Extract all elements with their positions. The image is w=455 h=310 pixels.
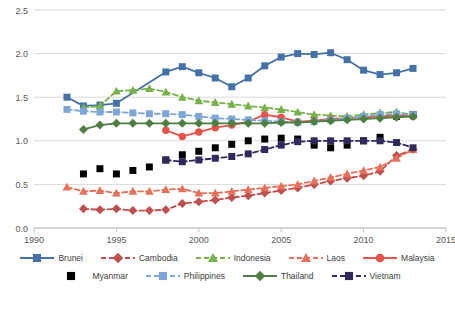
- x-tick-label: 2005: [271, 235, 291, 245]
- data-point-marker: [261, 146, 268, 153]
- data-point-marker: [327, 144, 334, 151]
- data-point-marker: [146, 110, 153, 117]
- data-point-marker: [294, 138, 301, 145]
- data-point-marker: [228, 141, 235, 148]
- line-chart-plot: 0.00.51.01.52.02.51990199520002005201020…: [0, 0, 455, 250]
- legend-label: Malaysia: [401, 252, 435, 264]
- data-point-marker: [129, 167, 136, 174]
- data-point-marker: [294, 50, 301, 57]
- data-point-marker: [410, 65, 417, 72]
- legend-key: [54, 270, 88, 282]
- x-tick-label: 2015: [436, 235, 455, 245]
- data-point-marker: [261, 111, 268, 118]
- y-tick-label: 1.5: [15, 93, 28, 103]
- series-line: [166, 141, 413, 162]
- x-tick-label: 1995: [106, 235, 126, 245]
- legend-key: [146, 270, 180, 282]
- data-point-marker: [113, 170, 120, 177]
- data-point-marker: [195, 148, 202, 155]
- y-tick-label: 0.5: [15, 180, 28, 190]
- legend-item-brunei[interactable]: Brunei: [20, 252, 83, 264]
- data-point-marker: [113, 100, 120, 107]
- data-point-marker: [360, 137, 367, 144]
- data-point-marker: [195, 69, 202, 76]
- data-point-marker: [179, 111, 186, 118]
- data-point-marker: [161, 205, 170, 214]
- data-point-marker: [146, 163, 153, 170]
- data-point-marker: [95, 205, 104, 214]
- data-point-marker: [96, 165, 103, 172]
- legend-key: [332, 270, 366, 282]
- data-point-marker: [179, 133, 186, 140]
- data-point-marker: [376, 163, 385, 171]
- data-point-marker: [245, 150, 252, 157]
- x-tick-label: 2010: [354, 235, 374, 245]
- data-point-marker: [212, 75, 219, 82]
- data-point-marker: [195, 128, 202, 135]
- data-point-marker: [195, 157, 202, 164]
- data-point-marker: [145, 206, 154, 215]
- data-point-marker: [145, 119, 154, 128]
- legend-label: Cambodia: [139, 252, 178, 264]
- data-point-marker: [113, 253, 124, 264]
- data-point-marker: [128, 206, 137, 215]
- data-point-marker: [63, 106, 70, 113]
- y-tick-label: 2.0: [15, 49, 28, 59]
- data-point-marker: [113, 109, 120, 116]
- legend-label: Indonesia: [234, 252, 271, 264]
- series-line: [67, 53, 413, 106]
- x-tick-label: 2000: [189, 235, 209, 245]
- data-point-marker: [212, 144, 219, 151]
- data-point-marker: [377, 71, 384, 78]
- legend-label: Laos: [327, 252, 345, 264]
- legend-key: [20, 252, 54, 264]
- legend-label: Philippines: [184, 270, 225, 282]
- legend-item-cambodia[interactable]: Cambodia: [101, 252, 178, 264]
- data-point-marker: [128, 119, 137, 128]
- legend-row-1: BruneiCambodiaIndonesiaLaosMalaysia: [0, 252, 455, 264]
- data-point-marker: [211, 196, 220, 205]
- chart-legend: BruneiCambodiaIndonesiaLaosMalaysia Myan…: [0, 252, 455, 310]
- data-point-marker: [376, 254, 385, 263]
- data-point-marker: [33, 254, 41, 262]
- data-point-marker: [195, 113, 202, 120]
- legend-key: [289, 252, 323, 264]
- data-point-marker: [255, 271, 266, 282]
- legend-item-philippines[interactable]: Philippines: [146, 270, 225, 282]
- legend-item-thailand[interactable]: Thailand: [243, 270, 314, 282]
- data-point-marker: [311, 51, 318, 58]
- data-point-marker: [377, 137, 384, 144]
- data-point-marker: [129, 109, 136, 116]
- data-point-marker: [178, 199, 187, 208]
- data-point-marker: [162, 110, 169, 117]
- data-point-marker: [261, 136, 268, 143]
- data-point-marker: [161, 119, 170, 128]
- y-tick-label: 2.5: [15, 6, 28, 16]
- legend-item-vietnam[interactable]: Vietnam: [332, 270, 401, 282]
- data-point-marker: [159, 272, 167, 280]
- legend-item-myanmar[interactable]: Myanmar: [54, 270, 127, 282]
- legend-item-indonesia[interactable]: Indonesia: [196, 252, 271, 264]
- data-point-marker: [67, 272, 75, 280]
- legend-item-laos[interactable]: Laos: [289, 252, 345, 264]
- data-point-marker: [79, 204, 88, 213]
- legend-item-malaysia[interactable]: Malaysia: [363, 252, 435, 264]
- data-point-marker: [112, 204, 121, 213]
- y-tick-label: 0.0: [15, 224, 28, 234]
- data-point-marker: [228, 153, 235, 160]
- data-point-marker: [194, 119, 203, 128]
- data-point-marker: [344, 137, 351, 144]
- data-point-marker: [345, 272, 353, 280]
- data-point-marker: [80, 108, 87, 115]
- data-point-marker: [327, 49, 334, 56]
- data-point-marker: [393, 139, 400, 146]
- data-point-marker: [79, 125, 88, 134]
- y-tick-label: 1.0: [15, 136, 28, 146]
- data-point-marker: [80, 170, 87, 177]
- data-point-marker: [393, 69, 400, 76]
- data-point-marker: [327, 137, 334, 144]
- data-point-marker: [194, 197, 203, 206]
- data-point-marker: [179, 63, 186, 70]
- data-point-marker: [112, 119, 121, 128]
- data-point-marker: [410, 144, 417, 151]
